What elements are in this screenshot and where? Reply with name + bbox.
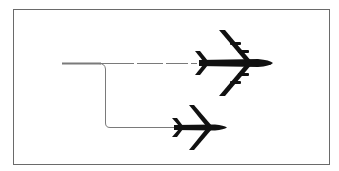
elbow-path-to-small-aircraft	[99, 64, 174, 128]
small-aircraft-icon	[172, 105, 227, 150]
large-aircraft-icon	[195, 30, 273, 96]
flight-paths	[62, 64, 197, 128]
diagram-canvas	[0, 0, 339, 171]
